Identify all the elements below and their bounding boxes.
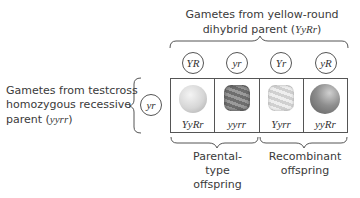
offspring-grid: YyRr yyrr Yyrr yyRr — [170, 78, 348, 133]
left-label-genotype: yyrr — [50, 113, 68, 125]
genotype-label: yyrr — [215, 118, 258, 130]
gamete-circle-YR: YR — [182, 52, 204, 74]
recombinant-line1: Recombinant — [262, 150, 348, 164]
recombinant-label: Recombinant offspring — [262, 150, 348, 178]
genotype-label: yyRr — [304, 118, 347, 130]
recombinant-line2: offspring — [262, 164, 348, 178]
offspring-cell-Yyrr: Yyrr — [260, 79, 304, 132]
round-yellow-seed-icon — [179, 85, 207, 113]
top-label-line1: Gametes from yellow-round — [176, 8, 348, 22]
left-label-prefix: parent ( — [6, 113, 50, 126]
genotype-label: YyRr — [171, 118, 214, 130]
genotype-label: Yyrr — [260, 118, 303, 130]
parental-line1: Parental- — [180, 150, 255, 164]
gamete-circle-yr: yr — [226, 52, 248, 74]
top-gametes-label: Gametes from yellow-round dihybrid paren… — [176, 8, 348, 37]
wrinkled-green-seed-icon — [224, 85, 250, 111]
top-brace — [170, 36, 348, 48]
offspring-cell-YyRr: YyRr — [171, 79, 215, 132]
offspring-cell-yyrr: yyrr — [215, 79, 259, 132]
recombinant-brace — [260, 137, 347, 148]
left-label-line3: parent (yyrr) — [6, 112, 156, 127]
parental-brace — [171, 137, 258, 148]
top-label-prefix: dihybrid parent ( — [203, 23, 295, 36]
gamete-circle-yR: yR — [315, 52, 337, 74]
offspring-cell-yyRr: yyRr — [304, 79, 347, 132]
left-gametes-label: Gametes from testcross homozygous recess… — [6, 84, 156, 127]
wrinkled-yellow-seed-icon — [268, 85, 294, 111]
round-green-seed-icon — [310, 84, 340, 114]
parental-line2: type — [180, 164, 255, 178]
top-label-line2: dihybrid parent (YyRr) — [176, 22, 348, 37]
left-gamete-circle-yr: yr — [140, 94, 162, 116]
top-label-genotype: YyRr — [295, 23, 317, 35]
left-label-line2: homozygous recessive — [6, 98, 156, 112]
parental-type-label: Parental- type offspring — [180, 150, 255, 192]
top-label-suffix: ) — [317, 23, 321, 36]
left-label-line1: Gametes from testcross — [6, 84, 156, 98]
gamete-circle-Yr: Yr — [270, 52, 292, 74]
parental-line3: offspring — [180, 178, 255, 192]
left-label-suffix: ) — [68, 113, 72, 126]
